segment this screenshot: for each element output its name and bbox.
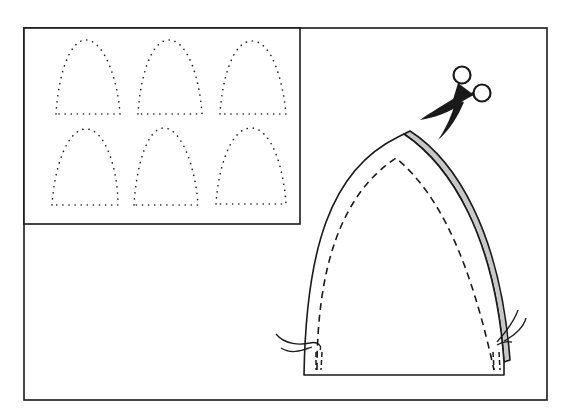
craft-illustration: [0, 0, 569, 420]
template-sheet-border: [24, 28, 300, 224]
template-sheet: [24, 28, 300, 224]
scissors-icon: [420, 67, 491, 141]
arch-fabric-piece: [276, 131, 526, 375]
arch-outline: [304, 134, 504, 375]
